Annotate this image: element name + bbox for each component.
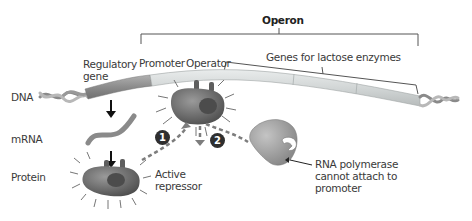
polymerase-pointer (290, 160, 312, 165)
genes-for-lactose-enzymes-label: Genes for lactose enzymes (266, 51, 401, 63)
protein-label: Protein (11, 171, 46, 183)
step-2-badge: 2 (210, 133, 225, 148)
active-repressor-label-2: repressor (155, 180, 202, 192)
step-1-badge: 1 (155, 130, 170, 145)
rna-polymerase-label-2: cannot attach to (315, 170, 397, 182)
operon-title: Operon (262, 14, 304, 26)
rna-polymerase (250, 120, 297, 166)
regulatory-gene-label-2: gene (83, 70, 108, 82)
lac-operon-diagram: Operon Regulatory gene Promoter Operator… (0, 0, 472, 221)
diagram-graphics (0, 0, 472, 221)
regulatory-gene-label: Regulatory (83, 58, 137, 70)
dna-helix-left (40, 92, 90, 102)
rna-polymerase-label: RNA polymerase (315, 158, 398, 170)
active-repressor-label: Active (155, 168, 186, 180)
operon-bracket (141, 28, 418, 46)
bound-repressor (171, 80, 225, 124)
dna-label: DNA (11, 91, 33, 103)
promoter-label: Promoter (139, 57, 185, 69)
operator-label: Operator (186, 57, 231, 69)
rna-polymerase-label-3: promoter (315, 182, 361, 194)
dna-helix-right (420, 95, 458, 106)
mrna-label: mRNA (11, 133, 42, 145)
mrna-strand (88, 116, 134, 143)
